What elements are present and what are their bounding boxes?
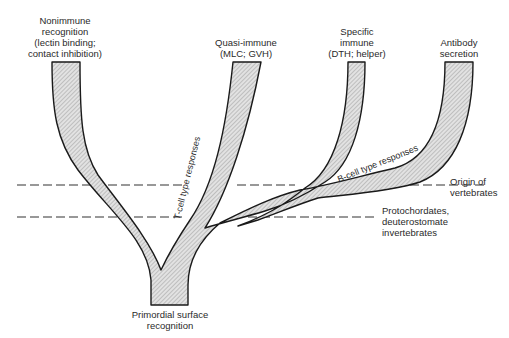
- origin-of-vertebrates-label: Origin of vertebrates: [450, 176, 498, 198]
- label-line: contact inhibition): [20, 48, 110, 59]
- nonimmune-recognition-label: Nonimmune recognition (lectin binding; c…: [20, 15, 110, 59]
- label-line: Nonimmune: [20, 15, 110, 26]
- label-line: invertebrates: [382, 227, 449, 238]
- label-line: Primordial surface: [120, 309, 220, 320]
- label-line: Protochordates,: [382, 205, 449, 216]
- label-line: Antibody: [430, 37, 488, 48]
- label-line: Quasi-immune: [206, 37, 286, 48]
- specific-immune-label: Specific immune (DTH; helper): [322, 26, 392, 59]
- label-line: immune: [322, 37, 392, 48]
- label-line: (lectin binding;: [20, 37, 110, 48]
- label-line: deuterostomate: [382, 216, 449, 227]
- label-line: (DTH; helper): [322, 48, 392, 59]
- label-line: (MLC; GVH): [206, 48, 286, 59]
- label-line: secretion: [430, 48, 488, 59]
- label-line: recognition: [20, 26, 110, 37]
- protochordates-label: Protochordates, deuterostomate invertebr…: [382, 205, 449, 238]
- antibody-secretion-label: Antibody secretion: [430, 37, 488, 59]
- label-line: recognition: [120, 320, 220, 331]
- label-line: Specific: [322, 26, 392, 37]
- primordial-recognition-label: Primordial surface recognition: [120, 309, 220, 331]
- label-line: vertebrates: [450, 187, 498, 198]
- quasi-immune-label: Quasi-immune (MLC; GVH): [206, 37, 286, 59]
- tree-shape: [52, 62, 473, 305]
- label-line: Origin of: [450, 176, 498, 187]
